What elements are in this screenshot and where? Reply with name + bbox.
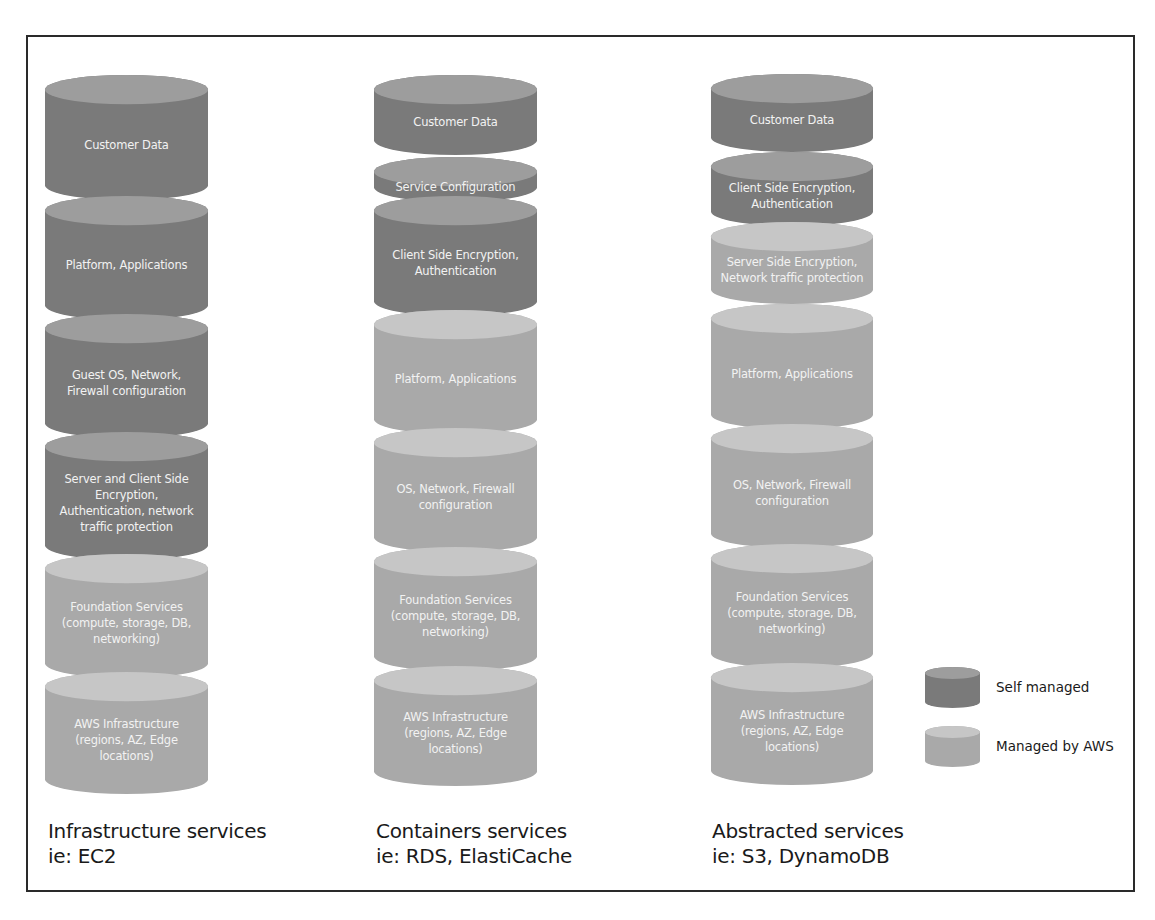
cylinder-layer: Foundation Services (compute, storage, D… bbox=[45, 554, 208, 678]
column-caption: Abstracted services ie: S3, DynamoDB bbox=[712, 819, 904, 869]
legend-aws-managed-icon bbox=[925, 726, 980, 767]
layer-label: Platform, Applications bbox=[719, 366, 865, 382]
cylinder-layer: Client Side Encryption, Authentication bbox=[711, 152, 873, 226]
cylinder-layer: Customer Data bbox=[711, 74, 873, 152]
cylinder-shape bbox=[925, 667, 980, 708]
legend-self-managed-icon bbox=[925, 667, 980, 708]
layer-label: Platform, Applications bbox=[382, 371, 529, 387]
layer-label: Platform, Applications bbox=[53, 257, 200, 273]
cylinder-layer: OS, Network, Firewall configuration bbox=[374, 428, 537, 552]
legend-self-managed-label: Self managed bbox=[996, 679, 1089, 695]
layer-label: AWS Infrastructure (regions, AZ, Edge lo… bbox=[382, 709, 529, 757]
column-caption: Infrastructure services ie: EC2 bbox=[48, 819, 266, 869]
cylinder-layer: OS, Network, Firewall configuration bbox=[711, 424, 873, 548]
layer-label: Foundation Services (compute, storage, D… bbox=[719, 589, 865, 637]
caption-example: ie: S3, DynamoDB bbox=[712, 844, 904, 869]
layer-label: Customer Data bbox=[53, 137, 200, 153]
layer-label: Client Side Encryption, Authentication bbox=[719, 180, 865, 212]
cylinder-layer: AWS Infrastructure (regions, AZ, Edge lo… bbox=[711, 663, 873, 785]
cylinder-layer: Foundation Services (compute, storage, D… bbox=[374, 547, 537, 671]
cylinder-layer: AWS Infrastructure (regions, AZ, Edge lo… bbox=[374, 666, 537, 786]
layer-label: Foundation Services (compute, storage, D… bbox=[382, 592, 529, 640]
layer-label: Client Side Encryption, Authentication bbox=[382, 247, 529, 279]
cylinder-layer: Platform, Applications bbox=[45, 196, 208, 320]
layer-label: Server Side Encryption, Network traffic … bbox=[719, 254, 865, 286]
cylinder-layer: Client Side Encryption, Authentication bbox=[374, 196, 537, 316]
layer-label: Service Configuration bbox=[382, 179, 529, 195]
cylinder-layer: Customer Data bbox=[374, 75, 537, 155]
cylinder-layer: AWS Infrastructure (regions, AZ, Edge lo… bbox=[45, 672, 208, 794]
cylinder-layer: Foundation Services (compute, storage, D… bbox=[711, 544, 873, 668]
cylinder-shape bbox=[925, 726, 980, 767]
cylinder-layer: Server and Client Side Encryption, Authe… bbox=[45, 432, 208, 560]
legend-aws-managed-label: Managed by AWS bbox=[996, 738, 1114, 754]
cylinder-layer: Customer Data bbox=[45, 75, 208, 200]
caption-title: Infrastructure services bbox=[48, 819, 266, 844]
caption-example: ie: RDS, ElastiCache bbox=[376, 844, 572, 869]
layer-label: AWS Infrastructure (regions, AZ, Edge lo… bbox=[53, 716, 200, 764]
layer-label: Guest OS, Network, Firewall configuratio… bbox=[53, 367, 200, 399]
column-caption: Containers services ie: RDS, ElastiCache bbox=[376, 819, 572, 869]
layer-label: OS, Network, Firewall configuration bbox=[719, 477, 865, 509]
layer-label: Customer Data bbox=[382, 114, 529, 130]
layer-label: Foundation Services (compute, storage, D… bbox=[53, 599, 200, 647]
caption-title: Containers services bbox=[376, 819, 572, 844]
caption-example: ie: EC2 bbox=[48, 844, 266, 869]
caption-title: Abstracted services bbox=[712, 819, 904, 844]
cylinder-layer: Platform, Applications bbox=[374, 310, 537, 434]
cylinder-layer: Guest OS, Network, Firewall configuratio… bbox=[45, 314, 208, 438]
layer-label: Server and Client Side Encryption, Authe… bbox=[53, 471, 200, 535]
layer-label: OS, Network, Firewall configuration bbox=[382, 481, 529, 513]
layer-label: AWS Infrastructure (regions, AZ, Edge lo… bbox=[719, 707, 865, 755]
cylinder-layer: Platform, Applications bbox=[711, 304, 873, 429]
layer-label: Customer Data bbox=[719, 112, 865, 128]
cylinder-layer: Server Side Encryption, Network traffic … bbox=[711, 222, 873, 304]
